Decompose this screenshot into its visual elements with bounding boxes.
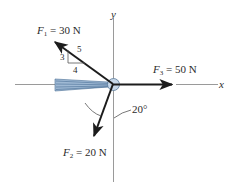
force-f1-subscript: 1 [44, 30, 48, 38]
force-f2-value: 20 N [85, 146, 107, 158]
angle-leader-icon [114, 110, 131, 118]
force-f3-symbol: F [153, 63, 160, 75]
force-f1-label: F1 = 30 N [37, 25, 81, 38]
slope-rise-label: 3 [60, 53, 65, 62]
force-f2-subscript: 2 [70, 152, 74, 160]
angle-label: 20° [132, 104, 147, 115]
force-f1-symbol: F [37, 24, 44, 36]
force-f1-value: 30 N [59, 24, 81, 36]
force-f3-label: F3 = 50 N [153, 64, 197, 77]
force-f2-label: F2 = 20 N [63, 147, 107, 160]
force-f2-symbol: F [63, 146, 70, 158]
force-f3-subscript: 3 [160, 69, 164, 77]
x-axis-label: x [219, 79, 224, 90]
slope-run-label: 4 [73, 66, 78, 75]
force-f1-equals: = [50, 24, 56, 36]
diagram-canvas [0, 0, 227, 190]
force-f2-arrow [94, 84, 113, 136]
y-axis-label: y [111, 9, 116, 20]
angle-arc-icon [85, 103, 101, 116]
force-diagram: y x F1 = 30 N 5 3 4 F3 = 50 N F2 = 20 N … [0, 0, 227, 190]
cable-icon [55, 79, 108, 91]
slope-hyp-label: 5 [77, 45, 82, 54]
force-f3-value: 50 N [175, 63, 197, 75]
force-f3-equals: = [166, 63, 172, 75]
force-f2-equals: = [76, 146, 82, 158]
